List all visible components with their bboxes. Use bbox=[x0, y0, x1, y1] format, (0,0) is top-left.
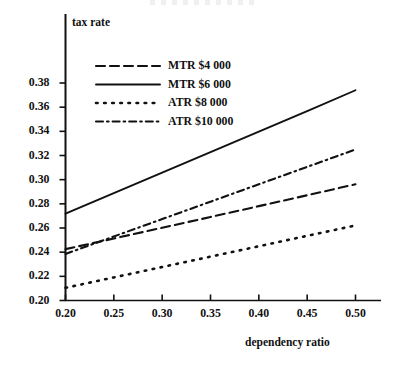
chart-figure: tax rate dependency ratio 0.200.220.240.… bbox=[0, 0, 398, 366]
series-line-0 bbox=[66, 184, 356, 249]
legend-label-1: MTR $6 000 bbox=[168, 77, 231, 92]
x-tick-label: 0.50 bbox=[334, 306, 378, 321]
y-tick-label: 0.24 bbox=[10, 244, 50, 259]
y-tick-label: 0.36 bbox=[10, 99, 50, 114]
y-tick-label: 0.34 bbox=[10, 123, 50, 138]
y-tick-label: 0.38 bbox=[10, 75, 50, 90]
x-tick-label: 0.35 bbox=[189, 306, 233, 321]
x-tick-label: 0.20 bbox=[44, 306, 88, 321]
legend-label-3: ATR $10 000 bbox=[168, 114, 233, 129]
y-tick-label: 0.28 bbox=[10, 196, 50, 211]
x-tick-label: 0.40 bbox=[237, 306, 281, 321]
legend-sample-lines bbox=[96, 66, 160, 122]
series-line-3 bbox=[66, 149, 356, 254]
y-tick-label: 0.30 bbox=[10, 172, 50, 187]
y-tick-label: 0.22 bbox=[10, 268, 50, 283]
x-tick-label: 0.45 bbox=[285, 306, 329, 321]
legend-label-2: ATR $8 000 bbox=[168, 95, 227, 110]
series-line-2 bbox=[66, 225, 356, 287]
x-tick-label: 0.30 bbox=[140, 306, 184, 321]
y-tick-label: 0.26 bbox=[10, 220, 50, 235]
y-tick-label: 0.32 bbox=[10, 148, 50, 163]
legend-label-0: MTR $4 000 bbox=[168, 58, 231, 73]
x-tick-label: 0.25 bbox=[92, 306, 136, 321]
